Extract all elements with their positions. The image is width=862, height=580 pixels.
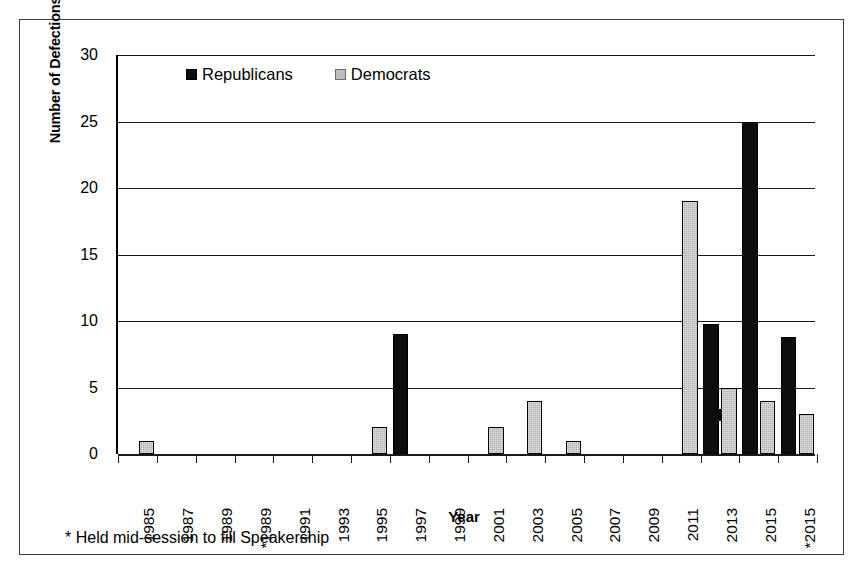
legend-item-republicans: Republicans (186, 66, 293, 83)
x-axis-tick (584, 454, 585, 463)
bar-democrats-2011 (682, 201, 698, 454)
x-axis-tick (468, 454, 469, 463)
x-axis-tick (429, 454, 430, 463)
x-axis-tick (506, 454, 507, 463)
bar-democrats-1985 (139, 441, 155, 454)
x-axis-title: Year (20, 508, 862, 525)
x-axis-tick (817, 454, 818, 463)
y-axis-tick-labels: 051015202530 (48, 20, 98, 490)
y-axis-tick-label: 15 (58, 247, 98, 263)
bar-democrats-1995 (372, 427, 388, 454)
x-axis-tick (623, 454, 624, 463)
y-axis-tick-label: 25 (58, 114, 98, 130)
bar-democrats-star2015 (799, 414, 815, 454)
bar-democrats-2001 (488, 427, 504, 454)
bar-republicans-star2015 (781, 337, 797, 454)
x-axis-tick (545, 454, 546, 463)
x-axis-tick (312, 454, 313, 463)
gray-square-icon (335, 69, 346, 80)
x-axis-tick (351, 454, 352, 463)
bar-republicans-2013 (703, 324, 719, 454)
x-axis-tick (390, 454, 391, 463)
x-axis-tick (196, 454, 197, 463)
bar-republicans-2015 (742, 122, 758, 455)
x-axis-tick (662, 454, 663, 463)
plot-area (116, 55, 815, 454)
bar-democrats-2005 (566, 441, 582, 454)
bar-democrats-2003 (527, 401, 543, 454)
x-axis-tick (118, 454, 119, 463)
bar-republicans-1997 (393, 334, 409, 454)
gridline (118, 321, 815, 322)
x-axis-tick (739, 454, 740, 463)
x-axis-tick (273, 454, 274, 463)
black-square-icon (186, 69, 197, 80)
y-axis-tick-label: 20 (58, 180, 98, 196)
legend-item-democrats: Democrats (335, 66, 431, 83)
y-axis-tick-label: 0 (58, 446, 98, 462)
legend-label-democrats: Democrats (351, 66, 431, 83)
y-axis-tick-label: 30 (58, 47, 98, 63)
x-axis-right-cap (719, 409, 721, 421)
chart-figure-frame: Number of Defections 051015202530 Republ… (19, 19, 844, 555)
gridline (118, 188, 815, 189)
x-axis-tick (235, 454, 236, 463)
x-axis-tick (701, 454, 702, 463)
chart-legend: Republicans Democrats (186, 66, 431, 83)
y-axis-tick-label: 10 (58, 313, 98, 329)
gridline (118, 122, 815, 123)
gridline (118, 55, 815, 56)
bar-democrats-2013 (721, 388, 737, 455)
y-axis-tick-label: 5 (58, 380, 98, 396)
legend-label-republicans: Republicans (202, 66, 293, 83)
x-axis-tick (157, 454, 158, 463)
bar-democrats-2015 (760, 401, 776, 454)
chart-footnote: * Held mid-session to fill Speakership (65, 528, 329, 548)
x-axis-tick (778, 454, 779, 463)
x-axis-baseline (118, 454, 815, 456)
gridline (118, 255, 815, 256)
